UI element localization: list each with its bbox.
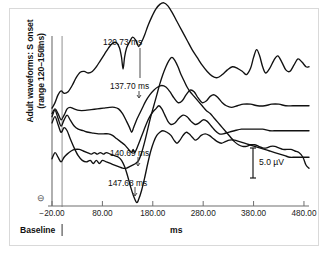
waveform-trace xyxy=(52,106,309,153)
waveform-trace xyxy=(52,3,309,108)
waveform-figure: Adult waveforms: S onset (range 120–150m… xyxy=(0,0,328,261)
x-tick-label: 380.00 xyxy=(232,209,276,218)
peak-latency-label: 137.70 ms xyxy=(110,81,149,91)
peak-annotation-layer xyxy=(133,48,141,196)
y-axis-title: Adult waveforms: S onset (range 120–150m… xyxy=(25,1,47,141)
waveform-trace xyxy=(52,85,309,132)
x-tick-label: −20.00 xyxy=(30,209,74,218)
peak-latency-label: 147.68 ms xyxy=(108,178,147,188)
x-axis-title: ms xyxy=(170,225,182,235)
peak-latency-label: 140.69 ms xyxy=(110,148,149,158)
scalebar-label: 5.0 µV xyxy=(259,157,284,167)
baseline-label: Baseline xyxy=(20,225,55,235)
waveform-trace-layer xyxy=(52,3,309,203)
peak-latency-label: 120.73 ms xyxy=(103,37,142,47)
plot-canvas xyxy=(0,0,328,261)
y-axis-title-line1: Adult waveforms: S onset xyxy=(25,1,36,141)
polarity-negative-icon: ⊖ xyxy=(37,194,45,203)
x-tick-label: 280.00 xyxy=(181,209,225,218)
amplitude-scalebar xyxy=(250,148,256,178)
y-axis-title-line2: (range 120–150ms) xyxy=(36,1,47,141)
x-tick-label: 480.00 xyxy=(282,209,326,218)
x-tick-label: 80.00 xyxy=(80,209,124,218)
x-tick-label: 180.00 xyxy=(131,209,175,218)
polarity-positive-icon: ⊕ xyxy=(37,43,45,52)
axis-layer xyxy=(48,36,309,236)
